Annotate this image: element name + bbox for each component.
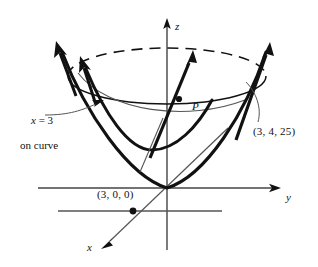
- tangent-arrow-outer-right-head: [262, 42, 274, 58]
- point-3-0-0-marker: [130, 208, 137, 215]
- point-p-marker: [176, 96, 182, 102]
- figure-container: z y x P (3, 4, 25) (3, 0, 0) x = 3 on cu…: [0, 0, 318, 267]
- tangent-arrow-outer-left-shaft: [60, 53, 76, 96]
- x-equals-3-operator: =: [36, 114, 48, 126]
- x-equals-3-note: x = 3 on curve: [20, 101, 58, 177]
- x-equals-3-note-line2: on curve: [20, 139, 58, 152]
- inner-vertex-tangent-line: [140, 118, 163, 172]
- tangent-arrows: [54, 41, 274, 158]
- coord-3-0-0-label: (3, 0, 0): [97, 188, 134, 201]
- z-axis-label: z: [175, 20, 179, 33]
- x-equals-3-value: 3: [48, 114, 54, 126]
- tangent-arrow-at-p-head: [186, 50, 197, 66]
- coord-3-4-25-label: (3, 4, 25): [253, 125, 295, 138]
- y-axis-label: y: [286, 191, 291, 204]
- x-axis-label: x: [87, 241, 92, 254]
- point-p-label: P: [192, 100, 199, 113]
